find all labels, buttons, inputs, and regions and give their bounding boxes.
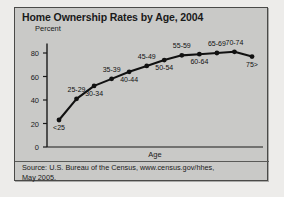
- source-line-1: Source: U.S. Bureau of the Census, www.c…: [22, 163, 214, 173]
- data-point-label: 75>: [246, 61, 258, 68]
- data-point-label: 55-59: [173, 42, 191, 49]
- data-point-label: 60-64: [190, 58, 208, 65]
- data-point-label: 70-74: [226, 39, 244, 46]
- data-point-label: 45-49: [138, 53, 156, 60]
- plot-area: [15, 8, 269, 182]
- data-point-label: 30-34: [85, 90, 103, 97]
- data-point-label: 25-29: [68, 86, 86, 93]
- x-axis-label: Age: [148, 150, 161, 159]
- data-point-label: 40-44: [120, 76, 138, 83]
- y-tick-label: 0: [23, 143, 39, 152]
- source-line-2: May 2005.: [22, 173, 214, 183]
- data-point-label: 50-54: [155, 64, 173, 71]
- y-tick-label: 20: [23, 119, 39, 128]
- chart-panel: Home Ownership Rates by Age, 2004 Percen…: [14, 7, 268, 181]
- y-tick-label: 60: [23, 72, 39, 81]
- line-chart-svg: [15, 8, 269, 182]
- source-note: Source: U.S. Bureau of the Census, www.c…: [22, 163, 214, 182]
- source-divider: [15, 161, 269, 162]
- data-point-label: 35-39: [103, 66, 121, 73]
- figure-root: Home Ownership Rates by Age, 2004 Percen…: [0, 0, 284, 197]
- data-point-label: 65-69: [208, 40, 226, 47]
- y-tick-label: 40: [23, 96, 39, 105]
- data-point-label: <25: [53, 124, 65, 131]
- y-tick-label: 80: [23, 49, 39, 58]
